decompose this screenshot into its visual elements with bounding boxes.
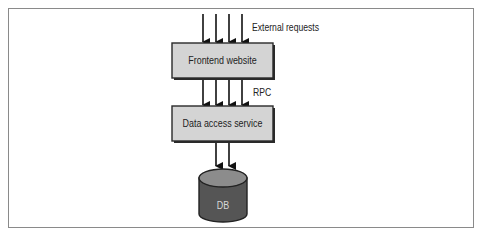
external-request-arrows bbox=[203, 14, 242, 42]
rpc-label: RPC bbox=[253, 86, 271, 98]
rpc-arrows bbox=[203, 80, 242, 105]
frontend-label: Frontend website bbox=[180, 54, 266, 66]
db-cylinder-icon bbox=[199, 169, 247, 222]
db-label: DB bbox=[203, 199, 244, 211]
db-arrows bbox=[216, 143, 229, 166]
external-requests-label: External requests bbox=[252, 21, 319, 33]
data-access-label: Data access service bbox=[180, 117, 266, 129]
